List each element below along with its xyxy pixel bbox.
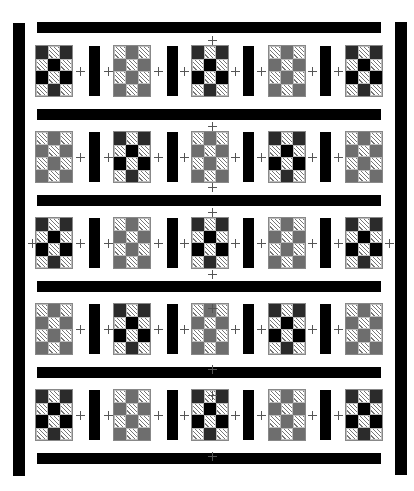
plus-mark-icon — [104, 67, 113, 76]
hatch-patch — [60, 256, 72, 269]
gray-patch — [370, 145, 382, 158]
hatch-patch — [293, 415, 305, 428]
gray-patch — [269, 59, 281, 72]
gray-patch — [60, 342, 72, 355]
hatch-patch — [204, 342, 216, 355]
plus-mark-icon — [334, 239, 343, 248]
gray-patch — [114, 59, 126, 72]
hatch-patch — [346, 231, 358, 244]
dark-patch — [346, 218, 358, 231]
vertical-sashing-bar — [320, 132, 331, 182]
hatch-patch — [138, 415, 150, 428]
gray-patch — [48, 157, 60, 170]
plus-mark-icon — [28, 239, 37, 248]
black-patch — [60, 415, 72, 428]
gray-patch — [346, 170, 358, 183]
plus-mark-icon — [76, 67, 85, 76]
gray-block — [268, 45, 306, 97]
horizontal-sashing-bar — [37, 281, 381, 292]
hatch-patch — [293, 218, 305, 231]
black-patch — [204, 403, 216, 416]
hatch-patch — [358, 415, 370, 428]
plus-mark-icon — [231, 325, 240, 334]
hatch-patch — [204, 46, 216, 59]
gray-patch — [138, 59, 150, 72]
black-patch — [358, 403, 370, 416]
plus-mark-icon — [231, 239, 240, 248]
vertical-sashing-bar — [167, 218, 178, 268]
dark-patch — [36, 218, 48, 231]
plus-mark-icon — [334, 153, 343, 162]
plus-mark-icon — [180, 411, 189, 420]
horizontal-sashing-bar — [37, 195, 381, 206]
plus-mark-icon — [231, 67, 240, 76]
black-patch — [204, 231, 216, 244]
hatch-patch — [281, 403, 293, 416]
plus-mark-icon — [104, 411, 113, 420]
vertical-sashing-bar — [320, 390, 331, 440]
hatch-patch — [114, 71, 126, 84]
hatch-patch — [192, 84, 204, 97]
hatch-patch — [138, 71, 150, 84]
dark-patch — [36, 390, 48, 403]
dark-block — [113, 131, 151, 183]
dark-patch — [204, 84, 216, 97]
plus-mark-icon — [208, 183, 217, 192]
hatch-patch — [358, 46, 370, 59]
hatch-patch — [370, 428, 382, 441]
hatch-patch — [114, 218, 126, 231]
hatch-patch — [293, 71, 305, 84]
hatch-patch — [281, 304, 293, 317]
gray-patch — [36, 317, 48, 330]
dark-patch — [216, 218, 228, 231]
plus-mark-icon — [104, 325, 113, 334]
dark-patch — [358, 256, 370, 269]
hatch-patch — [192, 256, 204, 269]
black-patch — [216, 243, 228, 256]
gray-patch — [192, 342, 204, 355]
black-patch — [216, 415, 228, 428]
black-patch — [269, 329, 281, 342]
hatch-patch — [36, 304, 48, 317]
gray-patch — [138, 231, 150, 244]
black-patch — [36, 415, 48, 428]
hatch-patch — [358, 71, 370, 84]
gray-patch — [293, 403, 305, 416]
hatch-patch — [346, 403, 358, 416]
hatch-patch — [358, 218, 370, 231]
hatch-patch — [126, 329, 138, 342]
hatch-patch — [293, 243, 305, 256]
dark-patch — [48, 428, 60, 441]
hatch-patch — [346, 59, 358, 72]
dark-patch — [358, 84, 370, 97]
hatch-patch — [358, 390, 370, 403]
gray-patch — [138, 84, 150, 97]
hatch-patch — [269, 218, 281, 231]
hatch-patch — [126, 59, 138, 72]
hatch-patch — [281, 256, 293, 269]
hatch-patch — [293, 390, 305, 403]
gray-patch — [346, 317, 358, 330]
dark-block — [35, 45, 73, 97]
plus-mark-icon — [257, 67, 266, 76]
gray-patch — [192, 317, 204, 330]
black-patch — [114, 329, 126, 342]
hatch-patch — [36, 403, 48, 416]
hatch-patch — [346, 428, 358, 441]
gray-patch — [126, 415, 138, 428]
black-patch — [370, 71, 382, 84]
black-patch — [293, 329, 305, 342]
hatch-patch — [138, 170, 150, 183]
dark-patch — [36, 46, 48, 59]
hatch-patch — [216, 256, 228, 269]
hatch-patch — [346, 84, 358, 97]
gray-patch — [370, 170, 382, 183]
plus-mark-icon — [257, 411, 266, 420]
hatch-patch — [370, 403, 382, 416]
vertical-sashing-bar — [167, 132, 178, 182]
black-patch — [346, 71, 358, 84]
hatch-patch — [216, 231, 228, 244]
vertical-sashing-bar — [243, 304, 254, 354]
hatch-patch — [358, 170, 370, 183]
hatch-patch — [216, 59, 228, 72]
